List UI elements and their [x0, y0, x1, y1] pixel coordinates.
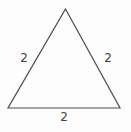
triangle-figure: 2 2 2: [0, 0, 131, 132]
left-side-length-label: 2: [20, 52, 28, 64]
bottom-side-length-label: 2: [60, 111, 68, 123]
right-side-length-label: 2: [104, 52, 112, 64]
